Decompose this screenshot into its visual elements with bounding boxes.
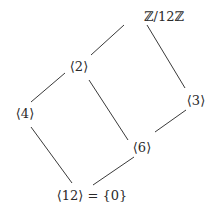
edge-4-bottom <box>31 127 72 183</box>
edge-top-3 <box>147 25 185 88</box>
node-z12z: ℤ/12ℤ <box>144 10 184 24</box>
node-subgroup-3: ⟨3⟩ <box>187 94 205 108</box>
edge-2-6 <box>89 80 128 140</box>
edge-top-2 <box>91 25 124 55</box>
node-trivial-subgroup: ⟨12⟩ = {0} <box>57 189 128 203</box>
node-subgroup-2: ⟨2⟩ <box>70 60 88 74</box>
edge-3-6 <box>155 110 186 132</box>
edge-6-bottom <box>93 157 134 185</box>
node-subgroup-6: ⟨6⟩ <box>133 141 151 155</box>
edge-2-4 <box>31 73 65 102</box>
node-subgroup-4: ⟨4⟩ <box>16 107 34 121</box>
hasse-edges <box>0 0 216 210</box>
